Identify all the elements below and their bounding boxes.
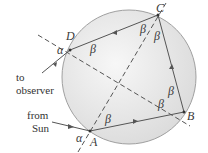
raindrop-diagram: C D B A α β β β β β β α to observer from… — [0, 0, 208, 153]
point-D-dot — [69, 49, 72, 52]
angle-alpha-D: α — [57, 43, 64, 57]
to-observer-label-line1: to — [16, 71, 25, 83]
label-A: A — [89, 135, 98, 149]
from-sun-label-line2: Sun — [32, 122, 50, 134]
to-observer-label-line2: observer — [16, 84, 54, 96]
angle-beta-B-upper: β — [167, 84, 174, 98]
point-A-dot — [89, 130, 92, 133]
angle-beta-A: β — [104, 112, 111, 126]
label-D: D — [65, 29, 75, 43]
angle-alpha-A: α — [76, 131, 83, 145]
point-B-dot — [183, 111, 186, 114]
from-sun-label-line1: from — [27, 109, 49, 121]
angle-beta-B-lower: β — [157, 97, 164, 111]
angle-beta-D: β — [89, 42, 96, 56]
angle-beta-C-right: β — [153, 29, 160, 43]
label-B: B — [187, 109, 195, 123]
angle-beta-C-left: β — [139, 22, 146, 36]
raindrop-circle — [62, 10, 196, 144]
label-C: C — [156, 1, 165, 15]
